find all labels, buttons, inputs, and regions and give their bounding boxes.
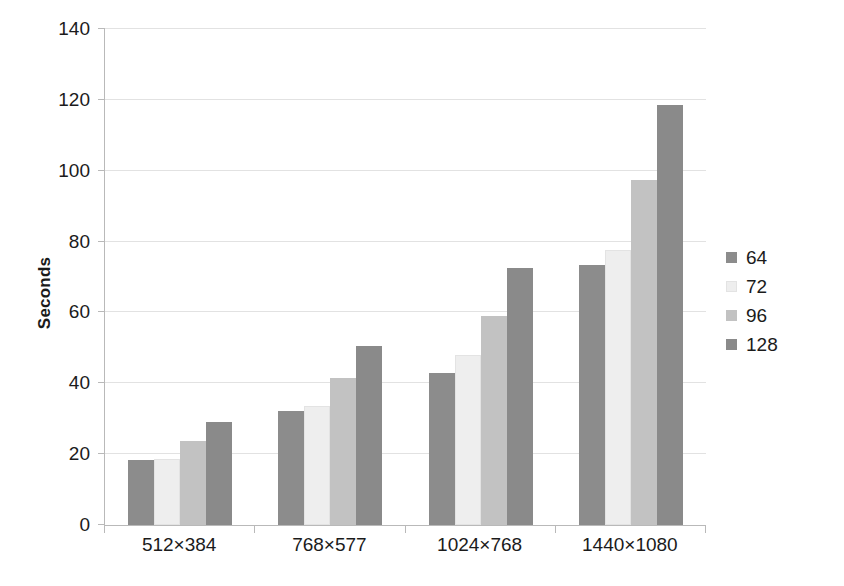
legend-swatch-icon [726,339,737,350]
legend-swatch-icon [726,252,737,263]
y-axis-tick-mark [98,170,105,171]
y-axis-tick-label: 120 [20,89,90,111]
bar [128,460,154,525]
legend-label: 128 [746,335,778,354]
y-axis-tick-mark [98,241,105,242]
bar [455,355,481,525]
legend-swatch-icon [726,310,737,321]
x-axis-tick-label: 512×384 [142,534,217,556]
bar [507,268,533,525]
legend-label: 72 [746,277,767,296]
legend-label: 64 [746,248,767,267]
y-axis-tick-label: 60 [20,301,90,323]
bar [657,105,683,525]
legend: 647296128 [726,243,826,359]
bar [180,441,206,525]
y-axis-tick-label: 140 [20,18,90,40]
bar [605,250,631,525]
plot-area [104,29,706,526]
x-axis-tick-mark [254,525,255,533]
bar [206,422,232,525]
y-axis-tick-mark [98,453,105,454]
bar-chart: Seconds 020406080100120140 512×384768×57… [0,0,844,586]
bar [579,265,605,525]
legend-item: 72 [726,272,826,301]
legend-swatch-icon [726,281,737,292]
y-axis-tick-mark [98,382,105,383]
bar-group [579,29,683,525]
y-axis-tick-mark [98,311,105,312]
bar [429,373,455,525]
bar [631,180,657,525]
x-axis-tick-mark [405,525,406,533]
y-axis-tick-label: 100 [20,160,90,182]
x-axis-tick-label: 1024×768 [437,534,522,556]
y-axis-tick-label: 80 [20,231,90,253]
x-axis-tick-label: 1440×1080 [582,534,678,556]
y-axis-tick-label: 20 [20,443,90,465]
x-axis-tick-mark [104,525,105,533]
bar-group [128,29,232,525]
bar [304,406,330,525]
bar [481,316,507,525]
y-axis-tick-mark [98,99,105,100]
legend-label: 96 [746,306,767,325]
legend-item: 64 [726,243,826,272]
bar [154,459,180,525]
x-axis-tick-label: 768×577 [292,534,367,556]
legend-item: 96 [726,301,826,330]
legend-item: 128 [726,330,826,359]
bar-group [429,29,533,525]
y-axis-tick-label: 40 [20,372,90,394]
y-axis-tick-mark [98,28,105,29]
x-axis-tick-labels: 512×384768×5771024×7681440×1080 [104,534,705,564]
bar-group [278,29,382,525]
bar [278,411,304,525]
x-axis-tick-mark [705,525,706,533]
bar [330,378,356,525]
y-axis-tick-label: 0 [20,514,90,536]
x-axis-tick-mark [555,525,556,533]
bar [356,346,382,525]
